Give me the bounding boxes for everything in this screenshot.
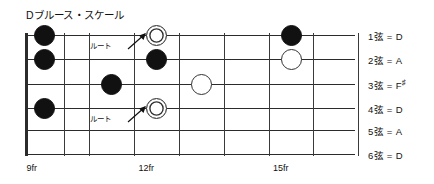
string-label-equals-5: = (384, 126, 396, 137)
fretboard-grid: ルートルート (25, 35, 358, 154)
string-label-equals-1: = (384, 31, 396, 42)
fret-number-12fr: 12fr (139, 163, 155, 173)
string-label-note-4: D (396, 104, 403, 115)
root-callout-arrow-2 (127, 104, 153, 124)
fret-line-7 (313, 33, 314, 156)
fret-line-4 (179, 33, 180, 156)
string-line-6 (25, 154, 355, 155)
fret-number-9fr: 9fr (27, 163, 38, 173)
fret-line-0 (25, 33, 28, 156)
string-label-equals-4: = (384, 104, 396, 115)
string-label-note-1: D (396, 31, 403, 42)
note-marker-filled-s1-f6 (281, 25, 302, 46)
string-label-number-3: 3弦 (368, 80, 384, 91)
fret-line-1 (64, 33, 65, 156)
string-label-accidental-3: ♯ (402, 78, 406, 87)
string-label-number-5: 5弦 (368, 126, 384, 137)
string-label-number-2: 2弦 (368, 55, 384, 66)
string-label-equals-2: = (384, 55, 396, 66)
string-line-3 (25, 84, 355, 85)
string-label-number-1: 1弦 (368, 31, 384, 42)
string-label-6: 6弦 = D (368, 148, 403, 162)
string-label-number-6: 6弦 (368, 150, 384, 161)
fretboard-diagram: Dブルース・スケール ルートルート 9fr12fr15fr 1弦 = D2弦 =… (0, 0, 434, 184)
fret-line-6 (269, 33, 270, 156)
fret-number-15fr: 15fr (273, 163, 289, 173)
string-line-2 (25, 59, 355, 60)
note-marker-filled-s2-f3 (146, 49, 167, 70)
note-marker-hollow-s2-f6 (281, 49, 302, 70)
note-marker-filled-s2-f0 (34, 49, 55, 70)
string-label-2: 2弦 = A (368, 53, 402, 67)
string-label-note-6: D (396, 150, 403, 161)
note-marker-filled-s1-f0 (34, 25, 55, 46)
string-label-equals-3: = (384, 80, 396, 91)
string-label-1: 1弦 = D (368, 29, 403, 43)
root-callout-arrow-1 (127, 31, 153, 51)
string-label-note-2: A (396, 55, 403, 66)
string-label-3: 3弦 = F♯ (368, 78, 406, 92)
diagram-title: Dブルース・スケール (26, 7, 125, 22)
string-label-equals-6: = (384, 150, 396, 161)
note-marker-hollow-s3-f4 (191, 74, 212, 95)
note-marker-filled-s4-f0 (34, 98, 55, 119)
string-label-4: 4弦 = D (368, 102, 403, 116)
root-callout-label-1: ルート (90, 40, 112, 51)
string-line-4 (25, 108, 355, 109)
fret-line-5 (224, 33, 225, 156)
string-label-number-4: 4弦 (368, 104, 384, 115)
string-label-5: 5弦 = A (368, 124, 402, 138)
string-label-note-5: A (396, 126, 403, 137)
string-line-5 (25, 130, 355, 131)
fret-line-2 (89, 33, 90, 156)
note-marker-filled-s3-f2 (101, 74, 122, 95)
root-callout-label-2: ルート (90, 113, 112, 124)
string-line-1 (25, 35, 355, 36)
fret-line-3 (134, 33, 135, 156)
fret-line-8 (358, 33, 359, 156)
